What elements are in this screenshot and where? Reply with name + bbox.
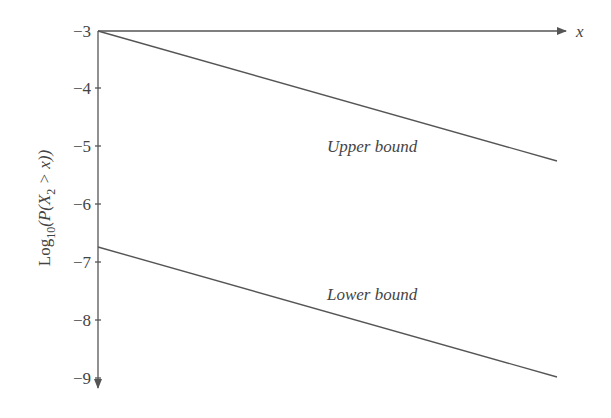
y-tick-label: −7 bbox=[73, 253, 92, 272]
chart: x −3 −4 −5 −6 −7 −8 −9 Log10(P(X2 > x)) … bbox=[0, 0, 611, 418]
y-tick-label: −4 bbox=[73, 79, 92, 98]
y-tick-label: −9 bbox=[73, 369, 91, 388]
lower-bound-label: Lower bound bbox=[326, 285, 418, 304]
lower-bound-line bbox=[98, 247, 557, 377]
y-tick-label: −3 bbox=[73, 22, 91, 41]
y-tick-label: −6 bbox=[73, 195, 91, 214]
x-axis-label: x bbox=[575, 22, 584, 41]
y-tick-label: −8 bbox=[73, 311, 91, 330]
y-tick-labels: −3 −4 −5 −6 −7 −8 −9 bbox=[73, 22, 92, 388]
y-tick-label: −5 bbox=[73, 137, 91, 156]
y-axis-label: Log10(P(X2 > x)) bbox=[35, 150, 58, 267]
upper-bound-label: Upper bound bbox=[327, 137, 418, 156]
